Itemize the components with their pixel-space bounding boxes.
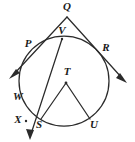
radius-t-u xyxy=(66,83,90,119)
label-p: P xyxy=(25,37,32,49)
label-v: V xyxy=(58,24,67,36)
label-t: T xyxy=(64,65,72,77)
label-s: S xyxy=(36,118,42,130)
arrowhead-lower-left-icon xyxy=(9,69,20,79)
label-r: R xyxy=(101,41,109,53)
geometry-canvas: Q V P R W X S T U xyxy=(0,0,135,142)
radius-t-s xyxy=(41,83,66,119)
arrowhead-bottom-icon xyxy=(26,129,34,140)
geometry-figure: Q V P R W X S T U xyxy=(0,0,135,142)
point-v-mark xyxy=(61,38,63,40)
label-u: U xyxy=(90,118,99,130)
label-x: X xyxy=(13,113,22,125)
point-x-mark xyxy=(25,120,27,122)
ray-q-r xyxy=(67,17,122,78)
label-w: W xyxy=(13,90,24,102)
label-q: Q xyxy=(63,0,71,12)
center-point-t xyxy=(65,82,68,85)
arrowhead-lower-right-icon xyxy=(116,73,127,83)
